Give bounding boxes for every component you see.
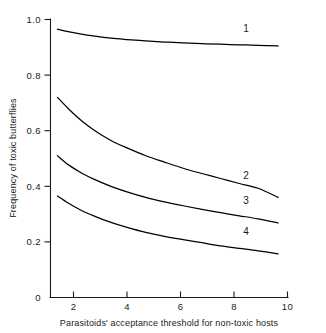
y-axis-ticks: 00.20.40.60.81.0 [27, 14, 51, 303]
y-tick-label: 0.4 [27, 181, 41, 192]
x-axis-ticks: 246810 [71, 292, 294, 313]
y-tick-label: 0 [35, 292, 41, 303]
curve-label-1: 1 [243, 23, 249, 34]
x-tick-label: 6 [178, 301, 184, 312]
chart-plot-area: 00.20.40.60.81.0 246810 1234 Parasitoids… [0, 0, 326, 333]
curve-label-2: 2 [243, 170, 249, 181]
curve-label-3: 3 [243, 195, 249, 206]
curve-series-3 [57, 156, 278, 223]
x-tick-label: 2 [71, 301, 77, 312]
y-tick-label: 0.2 [27, 236, 41, 247]
data-curves [57, 29, 278, 254]
x-tick-label: 10 [282, 301, 293, 312]
curve-label-4: 4 [243, 226, 249, 237]
curve-series-2 [57, 97, 278, 197]
chart-figure: 00.20.40.60.81.0 246810 1234 Parasitoids… [0, 0, 326, 333]
x-tick-label: 8 [231, 301, 237, 312]
x-axis-title: Parasitoids' acceptance threshold for no… [60, 318, 279, 328]
y-tick-label: 0.8 [27, 70, 41, 81]
x-tick-label: 4 [124, 301, 130, 312]
curve-labels: 1234 [243, 23, 249, 237]
y-tick-label: 1.0 [27, 14, 41, 25]
y-axis-title: Frequency of toxic butterflies [8, 98, 18, 218]
y-tick-label: 0.6 [27, 125, 41, 136]
